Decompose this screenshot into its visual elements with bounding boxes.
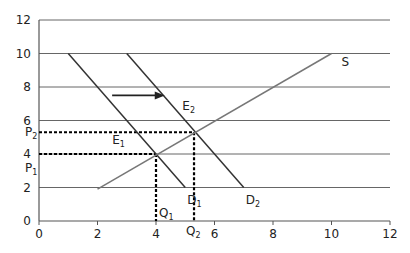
arrow-head-icon (155, 91, 165, 99)
label-E1: E1 (112, 133, 125, 149)
curve-S (98, 54, 332, 190)
x-tick-label: 0 (35, 227, 43, 241)
label-E2: E2 (182, 99, 195, 115)
x-tick-label: 8 (269, 227, 277, 241)
label-Q1: Q1 (159, 206, 174, 222)
label-S: S (342, 55, 350, 69)
label-Q2: Q2 (186, 224, 201, 240)
y-tick-label: 8 (23, 80, 31, 94)
x-tick-label: 12 (382, 227, 397, 241)
label-D2: D2 (246, 193, 260, 209)
y-tick-label: 0 (23, 214, 31, 228)
x-tick-label: 10 (324, 227, 339, 241)
x-tick-label: 4 (152, 227, 160, 241)
supply-demand-chart: 024681012024681012D1D2SE1E2P1P2Q1Q2 (0, 0, 410, 253)
x-tick-label: 6 (211, 227, 219, 241)
y-tick-label: 4 (23, 147, 31, 161)
y-tick-label: 12 (16, 13, 31, 27)
label-P2: P2 (25, 125, 37, 141)
label-D1: D1 (187, 193, 201, 209)
y-tick-label: 2 (23, 181, 31, 195)
x-tick-label: 2 (94, 227, 102, 241)
y-tick-label: 10 (16, 47, 31, 61)
label-P1: P1 (25, 161, 37, 177)
